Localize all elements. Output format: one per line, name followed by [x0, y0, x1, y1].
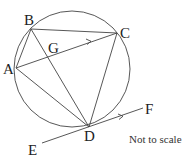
label-c: C [120, 25, 130, 41]
segment-bd [31, 29, 89, 127]
segment-ad [16, 68, 89, 127]
label-e: E [28, 142, 37, 158]
label-d: D [84, 128, 95, 144]
segment-ab [16, 29, 31, 68]
label-b: B [24, 12, 34, 28]
segment-bc [31, 29, 117, 33]
label-f: F [145, 101, 153, 117]
label-a: A [3, 61, 14, 77]
not-to-scale-note: Not to scale [129, 133, 182, 145]
geometry-diagram: B C G A D F E Not to scale [0, 0, 194, 161]
label-g: G [48, 40, 59, 56]
segment-ac [16, 33, 117, 68]
segment-cd [89, 33, 117, 127]
circle [14, 11, 130, 127]
